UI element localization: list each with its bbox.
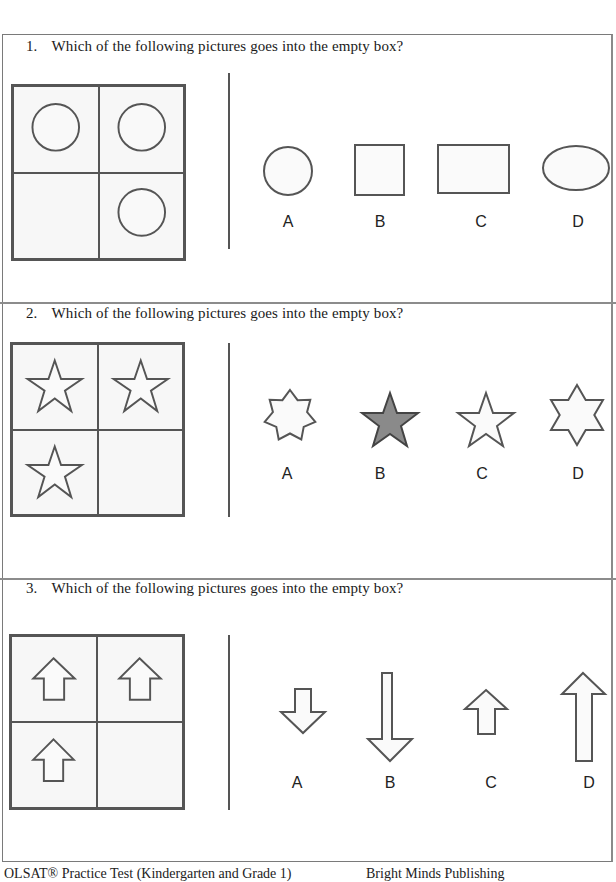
option-label: D (572, 213, 584, 231)
star-icon (13, 431, 97, 515)
question-3-title: 3. Which of the following pictures goes … (26, 580, 403, 597)
question-1-pattern-grid (11, 84, 186, 261)
option-label: A (292, 774, 303, 792)
option-label: D (572, 465, 584, 483)
option-label: B (375, 465, 386, 483)
page-footer: OLSAT® Practice Test (Kindergarten and G… (4, 866, 292, 882)
section-separator (0, 302, 616, 304)
question-2-title: 2. Which of the following pictures goes … (26, 305, 403, 322)
option-label: A (283, 213, 294, 231)
option-label: C (485, 774, 497, 792)
question-3-pattern-grid (9, 634, 185, 810)
grid-cell-bottom-left (11, 722, 97, 808)
star-icon (13, 345, 97, 429)
question-1-title: 1. Which of the following pictures goes … (26, 38, 403, 55)
ellipse-icon (542, 144, 610, 192)
circle-icon (14, 87, 98, 172)
option-label: D (583, 774, 595, 792)
up-arrow-icon (98, 637, 182, 721)
option-label: B (385, 774, 396, 792)
star-icon (99, 345, 183, 429)
question-number: 3. (26, 580, 48, 597)
star-icon (456, 391, 516, 447)
grid-cell-empty (98, 430, 184, 516)
question-prompt: Which of the following pictures goes int… (52, 38, 404, 54)
footer-test-title: OLSAT® Practice Test (Kindergarten and G… (4, 866, 292, 881)
grid-cell-top-left (12, 344, 98, 430)
circle-icon (100, 87, 184, 172)
six-point-star-icon (545, 383, 609, 447)
circle-icon (262, 145, 314, 197)
option-label: A (282, 465, 293, 483)
question-prompt: Which of the following pictures goes int… (52, 580, 404, 596)
gray-star-icon (360, 391, 420, 447)
option-label: C (475, 213, 487, 231)
grid-cell-top-right (99, 86, 185, 173)
rectangle-icon (437, 144, 511, 195)
question-2-pattern-grid (10, 342, 185, 517)
circle-icon (100, 174, 184, 259)
option-label: B (375, 213, 386, 231)
option-label: C (476, 465, 488, 483)
question-number: 1. (26, 38, 48, 55)
short-up-arrow-icon (464, 689, 512, 737)
long-up-arrow-icon (561, 672, 609, 764)
long-down-arrow-icon (367, 672, 415, 764)
question-1-divider (228, 73, 230, 249)
grid-cell-top-left (13, 86, 99, 173)
grid-cell-top-left (11, 636, 97, 722)
grid-cell-top-right (97, 636, 183, 722)
grid-cell-bottom-right (99, 173, 185, 260)
footer-publisher: Bright Minds Publishing (366, 866, 504, 882)
short-down-arrow-icon (280, 688, 328, 736)
up-arrow-icon (12, 637, 96, 721)
question-prompt: Which of the following pictures goes int… (52, 305, 404, 321)
grid-cell-empty (13, 173, 99, 260)
up-arrow-icon (12, 723, 96, 807)
grid-cell-top-right (98, 344, 184, 430)
square-icon (354, 144, 406, 196)
question-3-divider (228, 635, 230, 810)
question-number: 2. (26, 305, 48, 322)
grid-cell-bottom-left (12, 430, 98, 516)
seven-point-star-icon (262, 388, 318, 444)
grid-cell-empty (97, 722, 183, 808)
question-2-divider (228, 343, 230, 517)
